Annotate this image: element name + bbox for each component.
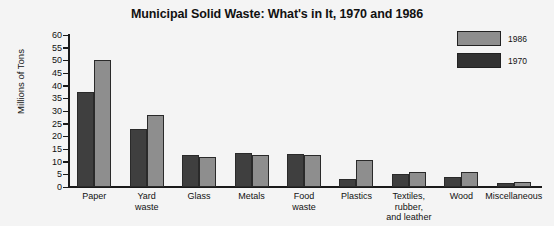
y-tick-label: 10 xyxy=(42,158,62,167)
legend-item: 1986 xyxy=(457,31,547,50)
bar-1970 xyxy=(182,155,199,187)
y-tick-label: 30 xyxy=(42,107,62,116)
bar-1970 xyxy=(287,154,304,187)
bar-1970 xyxy=(130,129,147,187)
legend-swatch xyxy=(457,53,501,68)
y-tick-mark xyxy=(63,35,68,37)
x-tick-label: Miscellaneous xyxy=(468,191,554,202)
bar-1986 xyxy=(409,172,426,187)
bar-1986 xyxy=(304,155,321,187)
y-tick-mark xyxy=(63,85,68,87)
y-tick-label: 50 xyxy=(42,56,62,65)
bar-group: Yardwaste xyxy=(130,35,164,187)
y-tick-label: 40 xyxy=(42,82,62,91)
y-tick-mark xyxy=(63,111,68,113)
chart-title: Municipal Solid Waste: What's in It, 197… xyxy=(0,7,554,21)
legend-label: 1986 xyxy=(508,34,527,44)
y-tick-mark xyxy=(63,161,68,163)
bar-1970 xyxy=(235,153,252,187)
bar-group: Plastics xyxy=(339,35,373,187)
y-tick-label: 20 xyxy=(42,132,62,141)
bar-1986 xyxy=(147,115,164,187)
chart-container: Municipal Solid Waste: What's in It, 197… xyxy=(0,0,554,226)
bar-group: Paper xyxy=(77,35,111,187)
y-tick-label: 35 xyxy=(42,94,62,103)
bar-1986 xyxy=(356,160,373,187)
y-tick-mark xyxy=(63,123,68,125)
y-tick-label: 5 xyxy=(42,170,62,179)
y-tick-label: 60 xyxy=(42,31,62,40)
legend-swatch xyxy=(457,31,501,46)
bar-group: Textiles,rubber,and leather xyxy=(392,35,426,187)
y-tick-mark xyxy=(63,73,68,75)
y-tick-label: 15 xyxy=(42,145,62,154)
y-axis-label: Millions of Tons xyxy=(15,34,26,130)
bar-1986 xyxy=(94,60,111,187)
chart-legend: 19861970 xyxy=(457,31,547,75)
bar-1986 xyxy=(461,172,478,187)
bar-group: Glass xyxy=(182,35,216,187)
y-tick-mark xyxy=(63,149,68,151)
bar-1970 xyxy=(497,183,514,187)
bar-group: Foodwaste xyxy=(287,35,321,187)
y-tick-mark xyxy=(63,98,68,100)
legend-label: 1970 xyxy=(508,56,527,66)
y-tick-mark xyxy=(63,187,68,189)
bar-1986 xyxy=(199,157,216,187)
bar-1970 xyxy=(339,179,356,187)
bar-group: Metals xyxy=(235,35,269,187)
y-tick-mark xyxy=(63,47,68,49)
bar-1970 xyxy=(444,177,461,187)
bar-1970 xyxy=(77,92,94,187)
y-tick-label: 45 xyxy=(42,69,62,78)
y-tick-mark xyxy=(63,60,68,62)
bar-1970 xyxy=(392,174,409,187)
legend-item: 1970 xyxy=(457,53,547,72)
y-tick-mark xyxy=(63,136,68,138)
y-tick-label: 55 xyxy=(42,44,62,53)
bar-1986 xyxy=(514,182,531,187)
bar-1986 xyxy=(252,155,269,187)
y-tick-mark xyxy=(63,174,68,176)
y-tick-label: 25 xyxy=(42,120,62,129)
